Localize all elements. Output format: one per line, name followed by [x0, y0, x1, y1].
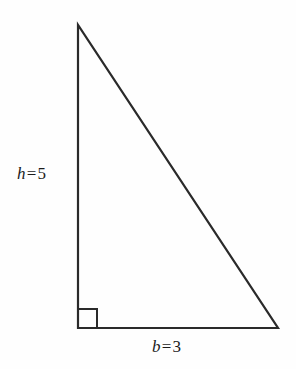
triangle-outline	[78, 25, 278, 328]
height-operator: =	[26, 164, 38, 183]
right-angle-marker-icon	[78, 309, 97, 328]
height-value: 5	[38, 164, 47, 183]
triangle-figure	[0, 0, 296, 369]
height-variable: h	[17, 164, 26, 183]
height-label: h=5	[17, 164, 46, 184]
base-value: 3	[173, 337, 182, 356]
base-operator: =	[161, 337, 173, 356]
figure-container: h=5 b=3	[0, 0, 296, 369]
base-variable: b	[152, 337, 161, 356]
base-label: b=3	[152, 337, 181, 357]
